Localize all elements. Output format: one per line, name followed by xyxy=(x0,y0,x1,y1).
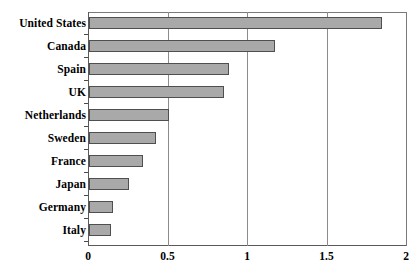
x-tick-label-2: 2 xyxy=(403,250,409,262)
x-tick-label-1.5: 1.5 xyxy=(319,250,333,262)
y-tick-6 xyxy=(84,172,88,173)
y-tick-5 xyxy=(84,149,88,150)
category-label-uk: UK xyxy=(2,86,86,98)
x-tick-label-0.5: 0.5 xyxy=(160,250,174,262)
y-tick-8 xyxy=(84,218,88,219)
category-label-italy: Italy xyxy=(2,224,86,236)
y-tick-9 xyxy=(84,241,88,242)
bar-united-states[interactable] xyxy=(89,17,382,29)
bar-japan[interactable] xyxy=(89,178,129,190)
y-tick-0 xyxy=(84,34,88,35)
bar-canada[interactable] xyxy=(89,40,275,52)
gridline-1.5 xyxy=(327,12,328,246)
y-tick-2 xyxy=(84,80,88,81)
bar-uk[interactable] xyxy=(89,86,224,98)
bar-spain[interactable] xyxy=(89,63,229,75)
category-label-canada: Canada xyxy=(2,40,86,52)
category-label-sweden: Sweden xyxy=(2,132,86,144)
plot-area xyxy=(88,12,406,246)
bar-italy[interactable] xyxy=(89,224,111,236)
x-tick-label-1: 1 xyxy=(244,250,250,262)
gridline-2 xyxy=(406,12,407,246)
category-label-germany: Germany xyxy=(2,201,86,213)
category-label-spain: Spain xyxy=(2,63,86,75)
bar-sweden[interactable] xyxy=(89,132,156,144)
category-label-japan: Japan xyxy=(2,178,86,190)
y-tick-1 xyxy=(84,57,88,58)
category-label-france: France xyxy=(2,155,86,167)
x-tick-label-0: 0 xyxy=(85,250,91,262)
y-tick-4 xyxy=(84,126,88,127)
y-tick-3 xyxy=(84,103,88,104)
horizontal-bar-chart: United States Canada Spain UK Netherland… xyxy=(0,0,419,273)
category-label-united-states: United States xyxy=(2,17,86,29)
bar-france[interactable] xyxy=(89,155,143,167)
bar-netherlands[interactable] xyxy=(89,109,169,121)
bar-germany[interactable] xyxy=(89,201,113,213)
y-tick-7 xyxy=(84,195,88,196)
category-label-netherlands: Netherlands xyxy=(2,109,86,121)
